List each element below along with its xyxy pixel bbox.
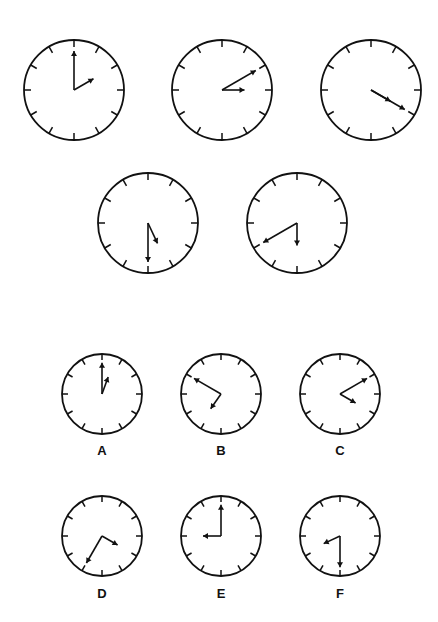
- clock-B: [181, 354, 261, 434]
- hour-tick: [254, 198, 260, 202]
- hour-tick: [119, 423, 122, 428]
- hour-tick: [186, 516, 191, 519]
- minute-hand-arrowhead: [99, 363, 105, 368]
- clock-C: [300, 354, 380, 434]
- hour-tick: [357, 501, 360, 506]
- hour-tick: [201, 359, 204, 364]
- hour-tick: [244, 47, 248, 53]
- hour-tick: [111, 112, 117, 116]
- hour-tick: [346, 127, 350, 133]
- hour-tick: [67, 516, 72, 519]
- clock-D: [62, 496, 142, 576]
- hour-tick: [305, 553, 310, 556]
- clock-top-2: [172, 40, 272, 140]
- hour-tick: [320, 501, 323, 506]
- hour-tick: [131, 411, 136, 414]
- hour-tick: [170, 180, 174, 186]
- hour-tick: [67, 374, 72, 377]
- clock-A: [62, 354, 142, 434]
- hour-tick: [123, 260, 127, 266]
- minute-hand-arrowhead: [337, 562, 343, 567]
- hour-tick: [111, 65, 117, 69]
- hour-tick: [320, 359, 323, 364]
- hour-tick: [238, 501, 241, 506]
- hour-tick: [238, 423, 241, 428]
- hour-tick: [119, 501, 122, 506]
- hour-tick: [67, 411, 72, 414]
- hour-tick: [82, 501, 85, 506]
- label-f: F: [330, 586, 350, 601]
- hour-tick: [259, 65, 265, 69]
- hour-tick: [408, 112, 414, 116]
- hour-tick: [319, 180, 323, 186]
- hour-tick: [49, 127, 53, 133]
- hour-tick: [119, 565, 122, 570]
- hour-tick: [131, 516, 136, 519]
- label-e: E: [211, 586, 231, 601]
- hour-tick: [254, 245, 260, 249]
- hour-tick: [186, 374, 191, 377]
- hour-tick: [201, 565, 204, 570]
- hour-tick: [393, 127, 397, 133]
- hour-tick: [201, 423, 204, 428]
- hour-hand-arrowhead: [240, 87, 245, 93]
- hour-tick: [31, 112, 37, 116]
- hour-tick: [369, 411, 374, 414]
- hour-tick: [131, 553, 136, 556]
- hour-tick: [357, 565, 360, 570]
- hour-tick: [319, 260, 323, 266]
- hour-tick: [170, 260, 174, 266]
- hour-tick: [105, 198, 111, 202]
- hour-tick: [334, 198, 340, 202]
- hour-tick: [250, 374, 255, 377]
- hour-tick: [179, 65, 185, 69]
- hour-tick: [369, 374, 374, 377]
- clock-top-1: [24, 40, 124, 140]
- hour-tick: [334, 245, 340, 249]
- hour-tick: [238, 565, 241, 570]
- hour-tick: [119, 359, 122, 364]
- hour-tick: [408, 65, 414, 69]
- hour-tick: [105, 245, 111, 249]
- hour-tick: [393, 47, 397, 53]
- hour-tick: [131, 374, 136, 377]
- hour-tick: [250, 411, 255, 414]
- hour-tick: [186, 411, 191, 414]
- hour-tick: [369, 553, 374, 556]
- hour-hand-arrowhead: [294, 241, 300, 246]
- hour-tick: [96, 127, 100, 133]
- minute-hand-arrowhead: [145, 257, 151, 262]
- minute-hand-arrowhead: [71, 51, 77, 56]
- clock-mid-2: [247, 173, 347, 273]
- clock-E: [181, 496, 261, 576]
- hour-tick: [82, 423, 85, 428]
- hour-tick: [186, 553, 191, 556]
- hour-tick: [305, 374, 310, 377]
- hour-tick: [82, 565, 85, 570]
- hour-tick: [179, 112, 185, 116]
- hour-tick: [185, 245, 191, 249]
- clock-mid-1: [98, 173, 198, 273]
- clock-F: [300, 496, 380, 576]
- minute-hand: [222, 71, 256, 91]
- hour-tick: [185, 198, 191, 202]
- hour-tick: [96, 47, 100, 53]
- minute-hand: [263, 223, 297, 243]
- hour-tick: [305, 516, 310, 519]
- hour-tick: [238, 359, 241, 364]
- hour-tick: [272, 260, 276, 266]
- hour-tick: [82, 359, 85, 364]
- label-b: B: [211, 443, 231, 458]
- clock-top-3: [321, 40, 421, 140]
- hour-tick: [250, 553, 255, 556]
- hour-tick: [328, 112, 334, 116]
- hour-tick: [67, 553, 72, 556]
- hour-tick: [31, 65, 37, 69]
- hour-tick: [201, 501, 204, 506]
- label-a: A: [92, 443, 112, 458]
- minute-hand-arrowhead: [218, 505, 224, 510]
- hour-tick: [123, 180, 127, 186]
- label-d: D: [92, 586, 112, 601]
- hour-tick: [328, 65, 334, 69]
- hour-tick: [197, 127, 201, 133]
